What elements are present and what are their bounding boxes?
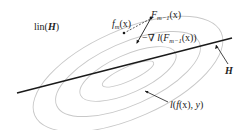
H-label: H	[225, 66, 233, 76]
hypothesis-line	[17, 38, 232, 93]
negative-gradient-label: −∇ l(Fm−1(x))	[142, 33, 197, 45]
fm-label: fm(x)	[112, 19, 131, 31]
Fm1-label: Fm−1(x)	[151, 10, 181, 22]
lin-H-label: lin(H)	[34, 22, 59, 32]
fm-point	[123, 32, 126, 35]
loss-label: l(f(x), y)	[170, 100, 203, 110]
loss-pointer-line	[145, 91, 168, 102]
gradient-boosting-diagram: lin(H) fm(x) Fm−1(x) −∇ l(Fm−1(x)) H l(f…	[0, 0, 247, 130]
contour-inner	[100, 56, 157, 92]
